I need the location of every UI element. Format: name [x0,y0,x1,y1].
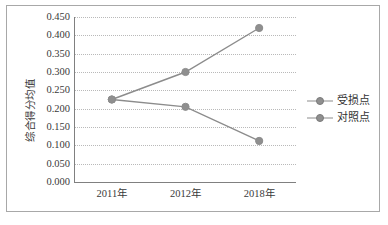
data-point-marker [256,137,263,144]
data-point-marker [182,68,189,75]
data-series-layer [75,17,296,182]
y-axis-tick-label: 0.050 [46,158,70,169]
legend-item-0: 受损点 [307,92,370,109]
y-axis-tick-label: 0.300 [46,67,70,78]
line-chart: 综合得分均值 0.0000.0500.1000.1500.2000.2500.3… [7,6,381,213]
y-axis-tick-label: 0.400 [46,30,70,41]
legend-marker-icon [307,113,333,123]
y-axis-tick-label: 0.450 [46,12,70,23]
y-axis-tick-label: 0.150 [46,122,70,133]
y-axis-tick-label: 0.350 [46,48,70,59]
y-axis-tick-label: 0.000 [46,177,70,188]
legend: 受损点 对照点 [307,92,370,126]
data-point-marker [182,103,189,110]
series-line-0 [112,28,259,100]
y-axis-tick-label: 0.100 [46,140,70,151]
y-axis-tick-label: 0.250 [46,85,70,96]
data-point-marker [108,96,115,103]
legend-item-1: 对照点 [307,109,370,126]
x-axis-tick-label: 2012年 [170,189,201,200]
chart-frame: 综合得分均值 0.0000.0500.1000.1500.2000.2500.3… [6,5,380,212]
legend-marker-icon [307,96,333,106]
y-axis-tick-label: 0.200 [46,103,70,114]
plot-area: 0.0000.0500.1000.1500.2000.2500.3000.350… [74,17,296,183]
data-point-marker [256,24,263,31]
x-axis-tick-label: 2011年 [97,189,128,200]
y-axis-title: 综合得分均值 [22,78,37,141]
x-axis-tick-label: 2018年 [244,189,275,200]
legend-label: 受损点 [337,95,370,106]
legend-label: 对照点 [337,112,370,123]
